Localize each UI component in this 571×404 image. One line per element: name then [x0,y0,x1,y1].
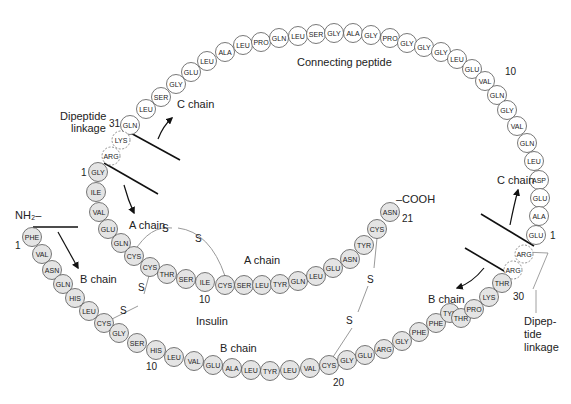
svg-text:CYS: CYS [322,362,337,369]
svg-text:GLU: GLU [358,352,372,359]
residue-ser: SER [128,334,147,353]
svg-text:TYR: TYR [273,281,287,288]
c-chain-right-label: C chain [497,174,534,186]
dipeptide-linkage-right-label-2: tide [524,328,542,340]
residue-phe: PHE [410,323,429,342]
svg-text:TYR: TYR [263,368,277,375]
residue-number-b30: 30 [513,291,525,302]
residue-leu: LEU [525,152,544,171]
svg-text:GLY: GLY [340,357,354,364]
connecting-peptide-label: Connecting peptide [297,56,392,68]
residue-val: VAL [90,203,109,222]
arrow-c-chain-top [158,118,172,139]
svg-text:GLN: GLN [123,122,137,129]
residue-lys: LYS [112,131,130,149]
svg-text:GLU: GLU [529,232,543,239]
cleavage-line-c1 [481,214,534,246]
nh2-label: NH₂– [15,209,42,221]
svg-text:CYS: CYS [370,226,385,233]
residue-ile: ILE [87,183,106,202]
svg-text:PRO: PRO [382,35,398,42]
svg-text:GLY: GLY [417,44,431,51]
residue-his: HIS [147,341,166,360]
svg-text:SER: SER [179,276,193,283]
residue-number-a10: 10 [199,294,211,305]
residue-leu: LEU [281,361,300,380]
residue-pro: PRO [465,300,484,319]
dipeptide-linkage-left-label-1: Dipeptide [60,110,106,122]
svg-text:ALA: ALA [225,365,239,372]
arrow-b-chain-right [457,268,484,288]
residue-ser: SER [152,88,171,107]
svg-text:CYS: CYS [218,282,233,289]
svg-text:LEU: LEU [255,282,269,289]
svg-text:CYS: CYS [127,253,142,260]
residue-val: VAL [33,245,52,264]
c-chain-top-label: C chain [177,98,214,110]
svg-text:LEU: LEU [139,106,153,113]
residue-gly: GLY [338,351,357,370]
residue-arg: ARG [515,245,533,263]
residue-val: VAL [301,359,320,378]
svg-text:GLN: GLN [490,92,504,99]
svg-text:HIS: HIS [69,295,81,302]
residue-arg: ARG [102,147,120,165]
residue-gln: GLN [518,134,537,153]
svg-text:LEU: LEU [82,308,96,315]
residue-leu: LEU [242,361,261,380]
residue-gly: GLY [167,75,186,94]
dipeptide-right: ARGARG [504,245,533,279]
dipeptide-linkage-right-label-1: Dipep- [524,315,557,327]
svg-text:LEU: LEU [309,273,323,280]
svg-text:THR: THR [454,315,468,322]
residue-gly: GLY [393,332,412,351]
residue-ala: ALA [530,207,549,226]
residue-pro: PRO [381,29,400,48]
svg-text:ILE: ILE [200,279,211,286]
svg-text:PHE: PHE [429,320,444,327]
svg-text:ASN: ASN [45,267,59,274]
svg-text:LEU: LEU [291,33,305,40]
b-chain-bottom-label: B chain [220,342,257,354]
residue-tyr: TYR [271,275,290,294]
svg-text:GLN: GLN [272,35,286,42]
svg-text:ALA: ALA [218,49,232,56]
residue-leu: LEU [307,267,326,286]
residue-number-b20: 20 [333,377,345,388]
svg-text:LEU: LEU [450,56,464,63]
svg-text:VAL: VAL [479,78,492,85]
svg-text:GLU: GLU [184,69,198,76]
residue-gln: GLN [270,29,289,48]
sulfur-label: S [195,233,202,244]
residue-arg: ARG [375,340,394,359]
residue-leu: LEU [253,276,272,295]
disulfide-a20-b19-upper [374,238,377,268]
svg-text:PHE: PHE [412,329,427,336]
residue-leu: LEU [234,36,253,55]
residue-tyr: TYR [261,362,280,381]
residue-asn: ASN [341,250,360,269]
residue-gly: GLY [498,101,517,120]
svg-text:CYS: CYS [97,320,112,327]
dipeptide-linkage-right-label-3: linkage [524,341,559,353]
residue-ala: ALA [344,24,363,43]
insulin-label: Insulin [196,315,228,327]
svg-text:ARG: ARG [505,267,520,274]
residue-val: VAL [185,352,204,371]
residue-ala: ALA [216,43,235,62]
sulfur-label: S [367,274,374,285]
cleavage-line-c31 [127,131,180,160]
cooh-label: –COOH [396,193,435,205]
residue-gly: GLY [415,38,434,57]
sulfur-label: S [120,305,127,316]
svg-text:HIS: HIS [150,347,162,354]
svg-text:GLY: GLY [395,338,409,345]
residue-phe: PHE [23,228,42,247]
svg-text:TYR: TYR [357,242,371,249]
svg-text:ALA: ALA [532,213,546,220]
residue-leu: LEU [165,348,184,367]
residue-cys: CYS [141,258,160,277]
svg-text:LEU: LEU [200,58,214,65]
residue-leu: LEU [137,100,156,119]
svg-text:GLY: GLY [500,107,514,114]
